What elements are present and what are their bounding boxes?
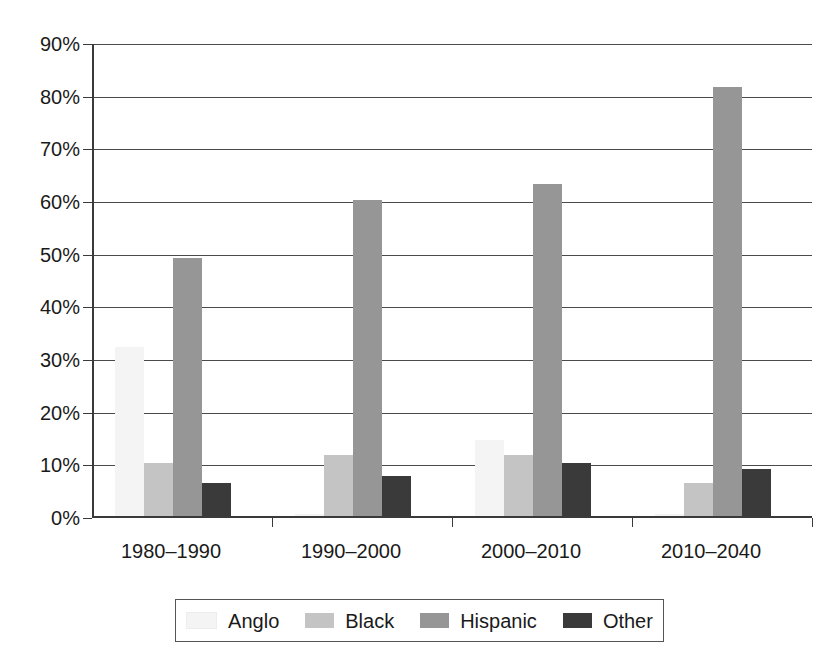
x-axis-end-tick-mark bbox=[812, 518, 813, 527]
y-axis-tick-label: 10% bbox=[10, 455, 80, 475]
y-axis-tick-label: 40% bbox=[10, 297, 80, 317]
bar-hispanic-1980–1990 bbox=[173, 258, 202, 516]
legend-swatch-other-icon bbox=[563, 613, 592, 628]
y-axis-tick-label: 20% bbox=[10, 403, 80, 423]
x-axis-tick-mark bbox=[632, 518, 633, 527]
bar-anglo-1990–2000 bbox=[295, 514, 324, 516]
y-axis-tick-label: 0% bbox=[10, 508, 80, 528]
chart-legend: AngloBlackHispanicOther bbox=[175, 599, 664, 642]
bar-black-2000–2010 bbox=[504, 455, 533, 516]
x-axis-category-label: 2010–2040 bbox=[661, 540, 761, 562]
bar-chart-figure: 0%10%20%30%40%50%60%70%80%90% 1980–19901… bbox=[0, 0, 839, 664]
y-axis-tick-label: 50% bbox=[10, 245, 80, 265]
legend-label: Anglo bbox=[228, 611, 279, 631]
y-axis-tick-mark bbox=[83, 465, 92, 466]
bar-black-2010–2040 bbox=[684, 483, 713, 516]
legend-label: Other bbox=[603, 611, 653, 631]
legend-label: Hispanic bbox=[460, 611, 537, 631]
bar-anglo-2000–2010 bbox=[475, 440, 504, 516]
x-axis-category-label: 1990–2000 bbox=[301, 540, 401, 562]
legend-entry-hispanic: Hispanic bbox=[420, 611, 537, 631]
bar-other-2010–2040 bbox=[742, 469, 771, 516]
bar-other-1980–1990 bbox=[202, 483, 231, 516]
x-axis-tick-mark bbox=[452, 518, 453, 527]
y-axis-tick-mark bbox=[83, 202, 92, 203]
bar-hispanic-2000–2010 bbox=[533, 184, 562, 516]
bar-anglo-1980–1990 bbox=[115, 347, 144, 516]
y-axis-tick-mark bbox=[83, 149, 92, 150]
y-axis-tick-mark bbox=[83, 255, 92, 256]
legend-label: Black bbox=[345, 611, 394, 631]
legend-swatch-black-icon bbox=[305, 613, 334, 628]
x-axis-category-label: 1980–1990 bbox=[121, 540, 221, 562]
legend-entry-other: Other bbox=[563, 611, 653, 631]
y-axis-tick-mark bbox=[83, 518, 92, 519]
y-axis-tick-label: 70% bbox=[10, 139, 80, 159]
x-axis-tick-mark bbox=[272, 518, 273, 527]
legend-entry-black: Black bbox=[305, 611, 394, 631]
y-axis-tick-mark bbox=[83, 307, 92, 308]
bar-other-2000–2010 bbox=[562, 463, 591, 516]
plot-area bbox=[92, 44, 812, 518]
bar-hispanic-1990–2000 bbox=[353, 200, 382, 516]
y-axis-tick-mark bbox=[83, 360, 92, 361]
y-axis-tick-label: 30% bbox=[10, 350, 80, 370]
legend-swatch-hispanic-icon bbox=[420, 613, 449, 628]
y-axis-tick-mark bbox=[83, 97, 92, 98]
bar-anglo-2010–2040 bbox=[655, 514, 684, 516]
bars-layer bbox=[94, 44, 812, 516]
y-axis-tick-label: 80% bbox=[10, 87, 80, 107]
y-axis-tick-mark bbox=[83, 413, 92, 414]
bar-hispanic-2010–2040 bbox=[713, 87, 742, 516]
bar-black-1980–1990 bbox=[144, 463, 173, 516]
bar-other-1990–2000 bbox=[382, 476, 411, 516]
y-axis-tick-mark bbox=[83, 44, 92, 45]
y-axis-tick-label: 90% bbox=[10, 34, 80, 54]
y-axis-tick-label: 60% bbox=[10, 192, 80, 212]
legend-entry-anglo: Anglo bbox=[186, 611, 279, 631]
bar-black-1990–2000 bbox=[324, 455, 353, 516]
x-axis-category-label: 2000–2010 bbox=[481, 540, 581, 562]
legend-swatch-anglo-icon bbox=[186, 612, 217, 629]
